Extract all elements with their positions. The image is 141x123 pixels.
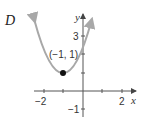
vertex-point — [60, 70, 66, 76]
x-axis-label: x — [130, 94, 136, 106]
y-tick-label-neg1: −1 — [68, 104, 80, 115]
y-axis-label: y — [74, 11, 80, 23]
chart: (−1, 1) y x 3 −2 2 −1 — [0, 0, 141, 123]
y-tick-label-3: 3 — [73, 31, 79, 42]
x-tick-label-neg2: −2 — [35, 96, 47, 107]
vertex-label: (−1, 1) — [49, 49, 78, 60]
x-tick-label-2: 2 — [119, 96, 125, 107]
